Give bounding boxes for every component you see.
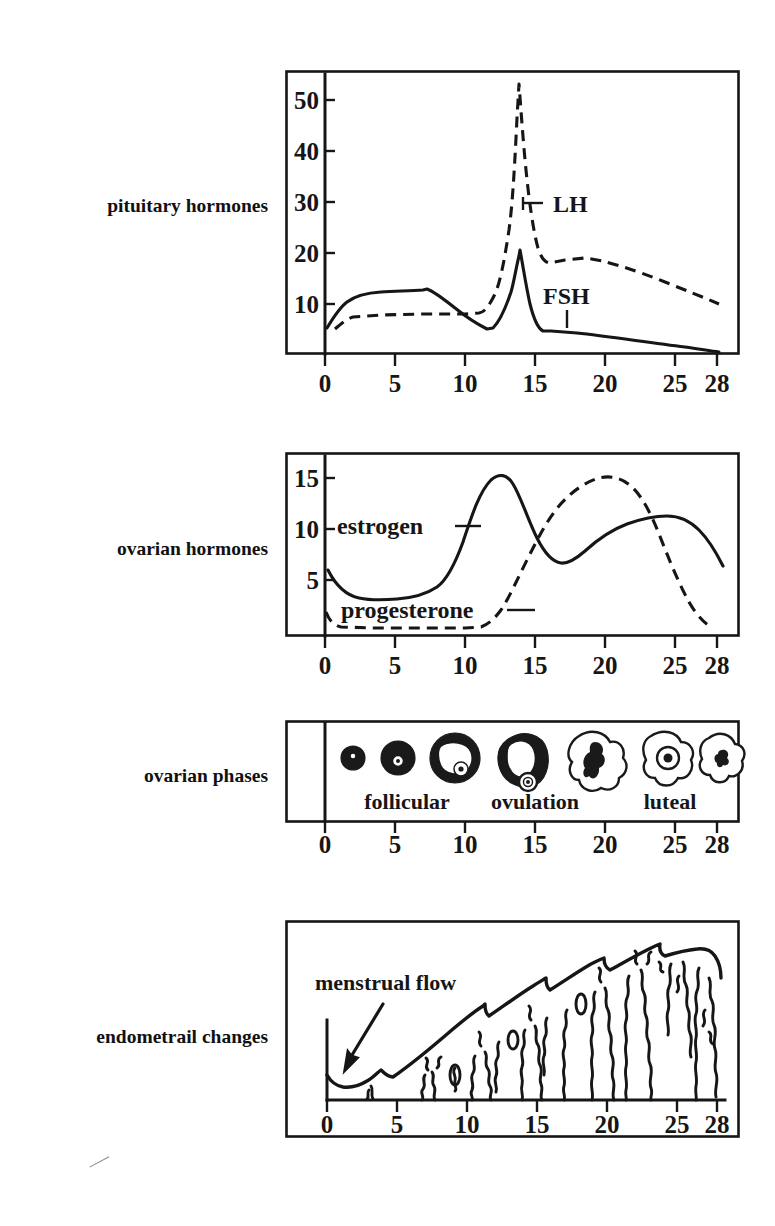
panel1-curve-fsh (327, 250, 719, 352)
panel3-xtick-20: 20 (593, 831, 618, 858)
panel4-xtick-10: 10 (455, 1111, 480, 1138)
panel1-series-label-fsh: FSH (543, 283, 590, 309)
panel1-ytick-10: 10 (294, 291, 319, 318)
panel3-xtick-15: 15 (523, 831, 548, 858)
follicle-icon-ruptured-follicle (568, 732, 626, 791)
panel2-xtick-10: 10 (453, 652, 478, 679)
panel1-xtick-25: 25 (663, 370, 688, 397)
panel3-xtick-28: 28 (705, 831, 730, 858)
panel2-xtick-5: 5 (389, 652, 402, 679)
follicle-icon-primordial-follicle (341, 746, 365, 770)
panel2-xtick-20: 20 (593, 652, 618, 679)
panel1-xtick-10: 10 (453, 370, 478, 397)
panel-endometrail-changes: menstrual flow 0 5 10 15 20 25 28 (285, 920, 750, 1160)
panel2-ytick-10: 10 (294, 516, 319, 543)
row-label-ovarian-hormones: ovarian hormones (0, 538, 268, 560)
panel4-annotation-arrow (345, 1004, 383, 1070)
follicle-icon-primary-follicle (381, 741, 415, 775)
panel1-xtick-0: 0 (319, 370, 332, 397)
panel4-xtick-0: 0 (321, 1111, 334, 1138)
panel1-xtick-15: 15 (523, 370, 548, 397)
panel1-lh-leader (523, 197, 543, 210)
panel1-ytick-50: 50 (294, 87, 319, 114)
follicle-icon-corpus-luteum (643, 732, 693, 786)
panel3-xtick-5: 5 (389, 831, 402, 858)
panel1-xtick-28: 28 (705, 370, 730, 397)
panel2-xtick-28: 28 (705, 652, 730, 679)
panel4-xtick-15: 15 (525, 1111, 550, 1138)
panel1-x-ticks (325, 354, 717, 366)
panel1-series-label-lh: LH (553, 191, 588, 217)
panel2-series-label-progesterone: progesterone (341, 597, 474, 623)
panel4-x-ticks (327, 1100, 717, 1112)
row-label-endometrail-changes: endometrail changes (0, 1026, 268, 1048)
menstrual-cycle-figure: pituitary hormones ovarian hormones ovar… (0, 0, 775, 1226)
panel1-ytick-40: 40 (294, 138, 319, 165)
panel-ovarian-phases: follicular ovulation luteal 0 5 10 15 20… (285, 720, 750, 855)
stray-scan-mark (85, 1147, 110, 1167)
row-label-ovarian-phases: ovarian phases (0, 765, 268, 787)
panel1-xtick-20: 20 (593, 370, 618, 397)
panel2-xtick-0: 0 (319, 652, 332, 679)
panel1-ytick-30: 30 (294, 189, 319, 216)
panel2-ytick-15: 15 (294, 465, 319, 492)
panel2-series-label-estrogen: estrogen (337, 513, 423, 539)
panel4-xtick-28: 28 (705, 1111, 730, 1138)
panel1-ytick-20: 20 (294, 240, 319, 267)
panel4-xtick-25: 25 (665, 1111, 690, 1138)
follicle-icon-graafian-follicle (498, 734, 548, 791)
panel3-xtick-25: 25 (663, 831, 688, 858)
row-label-pituitary-hormones: pituitary hormones (0, 195, 268, 217)
follicle-icon-secondary-follicle (430, 733, 480, 783)
panel4-xtick-20: 20 (595, 1111, 620, 1138)
panel-ovarian-hormones: 15 10 5 0 5 10 15 20 25 28 (285, 452, 750, 687)
phase-label-ovulation: ovulation (491, 789, 579, 814)
phase-label-luteal: luteal (644, 789, 697, 814)
panel2-xtick-15: 15 (523, 652, 548, 679)
panel2-x-ticks (325, 636, 717, 648)
panel2-ytick-5: 5 (307, 567, 320, 594)
panel-pituitary-hormones: 50 40 30 20 10 0 5 10 15 20 25 28 (285, 70, 750, 400)
panel3-xtick-0: 0 (319, 831, 332, 858)
panel3-xtick-10: 10 (453, 831, 478, 858)
panel2-xtick-25: 25 (663, 652, 688, 679)
panel4-annotation-menstrual-flow: menstrual flow (315, 970, 456, 995)
phase-label-follicular: follicular (364, 789, 450, 814)
panel1-xtick-5: 5 (389, 370, 402, 397)
panel4-xtick-5: 5 (391, 1111, 404, 1138)
